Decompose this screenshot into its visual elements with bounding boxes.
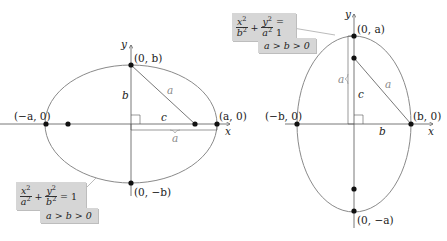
point-label-left: (−b, 0) (265, 110, 302, 122)
focus-left (65, 121, 70, 126)
focus-bottom (351, 186, 356, 191)
plus-sign: + (35, 191, 43, 202)
point-label-left: (−a, 0) (14, 110, 51, 122)
right-condition-box: a > b > 0 (258, 38, 316, 53)
plus-sign: + (251, 22, 259, 33)
y-axis-label: y (344, 8, 352, 20)
equals-one: = 1 (60, 191, 77, 202)
right-equation-box: x2 b2 + y2 a2 = 1 (232, 13, 296, 41)
point-label-right: (a, 0) (219, 110, 247, 122)
point-label-top: (0, a) (357, 23, 385, 35)
left-condition-box: a > b > 0 (40, 208, 98, 223)
fraction-y-over-b: y2 b2 (45, 186, 57, 207)
vertex-bottom (128, 180, 133, 185)
callout-line (293, 28, 335, 35)
x-axis-label: x (428, 125, 434, 137)
vertex-right (214, 121, 219, 126)
a-bracket (348, 36, 354, 124)
brace-icon (345, 74, 348, 84)
segment-label-a-hyp: a (167, 84, 173, 96)
segment-label-a-hyp: a (385, 78, 391, 90)
y-axis-label: y (120, 38, 128, 50)
segment-label-b: b (379, 125, 386, 137)
point-label-right: (b, 0) (413, 110, 441, 122)
segment-label-c: c (358, 88, 364, 100)
point-label-bottom: (0, −b) (134, 186, 171, 198)
vertex-right (408, 121, 413, 126)
segment-label-a-bracket: a (172, 132, 178, 144)
equals-one: = 1 (276, 16, 292, 38)
right-angle-marker (131, 115, 140, 124)
segment-label-c: c (161, 111, 167, 123)
vertex-bottom (351, 208, 356, 213)
vertex-top (128, 62, 133, 67)
vertex-top (351, 33, 356, 38)
x-axis-label: x (225, 125, 231, 137)
left-diagram: y x (0, b) (0, −b) (−a, 0) (a, 0) b c a … (0, 38, 247, 198)
vertex-left (43, 121, 48, 126)
point-label-top: (0, b) (134, 52, 162, 64)
fraction-x-over-a: x2 a2 (20, 186, 32, 207)
left-equation-box: x2 a2 + y2 b2 = 1 (16, 182, 86, 210)
segment-label-a-bracket: a (338, 73, 344, 85)
a-bracket (131, 124, 217, 130)
fraction-y-over-a: y2 a2 (261, 17, 273, 38)
segment-label-b: b (122, 89, 129, 101)
fraction-x-over-b: x2 b2 (236, 17, 248, 38)
right-angle-marker (354, 115, 363, 124)
focus-right (192, 121, 197, 126)
focus-top (351, 55, 356, 60)
point-label-bottom: (0, −a) (357, 214, 394, 226)
vertex-left (294, 121, 299, 126)
